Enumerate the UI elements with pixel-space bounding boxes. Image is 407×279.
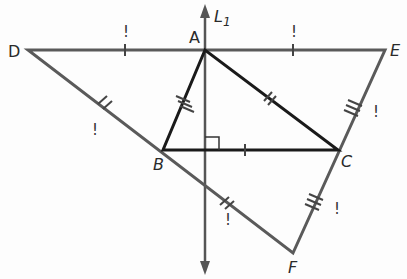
prime-mark-ae: ! xyxy=(291,23,297,41)
prime-mark-cf: ! xyxy=(334,200,340,218)
line-l1 xyxy=(200,4,210,275)
triangle-abc xyxy=(163,50,338,150)
arrow-up-icon xyxy=(200,4,210,18)
right-angle-mark xyxy=(205,137,219,150)
label-b: B xyxy=(153,155,164,174)
label-e: E xyxy=(390,41,401,60)
arrow-down-icon xyxy=(200,261,210,275)
prime-mark-da: ! xyxy=(123,23,129,41)
label-l1-main: L xyxy=(214,7,223,26)
prime-mark-ec: ! xyxy=(373,103,379,121)
label-l1: L1 xyxy=(214,7,231,29)
prime-mark-db: ! xyxy=(92,121,98,139)
label-d: D xyxy=(8,42,20,61)
prime-mark-bf: ! xyxy=(225,211,231,229)
geometry-diagram: ! ! ! ! ! ! D A E B C F L1 xyxy=(0,0,407,279)
label-l1-sub: 1 xyxy=(223,15,231,29)
diagram-canvas: ! ! ! ! ! ! D A E B C F L1 xyxy=(0,0,407,279)
label-f: F xyxy=(288,258,298,277)
label-a: A xyxy=(189,28,200,47)
label-c: C xyxy=(341,152,353,171)
